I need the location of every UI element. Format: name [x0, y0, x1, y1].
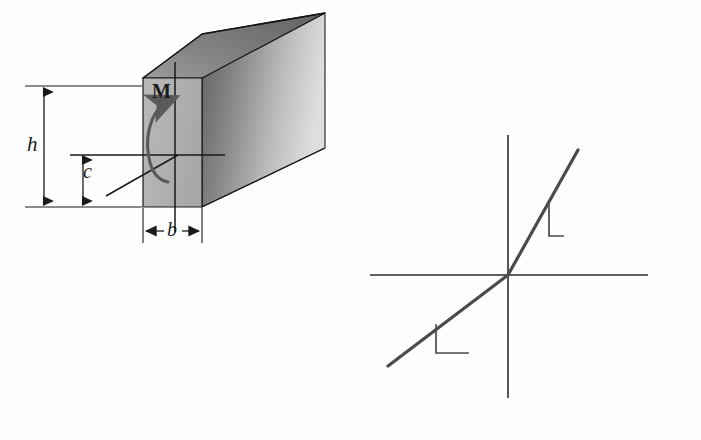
dimension-label-c: c — [83, 160, 92, 183]
dimension-label-b: b — [167, 218, 177, 241]
slope-triangle-compression — [436, 325, 468, 353]
stress-strain-curve — [388, 150, 578, 366]
stress-strain-svg — [360, 0, 701, 440]
stress-strain-panel: σ ϵ Et Ec — [360, 0, 701, 440]
beam-diagram-svg — [0, 0, 360, 440]
moment-label-M: M — [152, 80, 171, 103]
figure-root: h c b M σ ϵ Et Ec — [0, 0, 701, 440]
dimension-label-h: h — [27, 132, 38, 157]
slope-triangle-tension — [549, 202, 563, 236]
beam-diagram-panel: h c b M — [0, 0, 360, 440]
